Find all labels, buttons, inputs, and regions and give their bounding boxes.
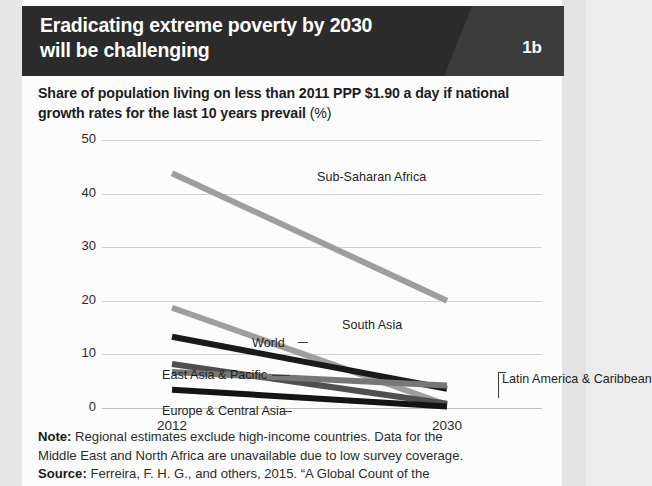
figure-title-line1: Eradicating extreme poverty by 2030 — [40, 14, 372, 36]
note-line-2: Middle East and North Africa are unavail… — [38, 447, 554, 466]
source-text-1: Ferreira, F. H. G., and others, 2015. “A… — [87, 466, 430, 481]
y-tick-label-30: 30 — [56, 238, 96, 253]
chart-subtitle: Share of population living on less than … — [38, 84, 550, 123]
series-label-sub-saharan-africa: Sub-Saharan Africa — [317, 170, 426, 184]
series-label-east-asia-pacific: East Asia & Pacific — [162, 368, 267, 382]
leader-latin-america-caribbean-vertical — [498, 372, 499, 398]
y-tick-label-50: 50 — [56, 131, 96, 146]
series-label-south-asia: South Asia — [342, 318, 402, 332]
source-label: Source: — [38, 466, 87, 481]
series-line-sub-saharan-africa — [172, 173, 447, 301]
leader-europe-central-asia — [280, 411, 292, 412]
header-diagonal-panel — [444, 6, 564, 76]
chart-subtitle-unit: (%) — [310, 105, 332, 121]
series-label-world: World — [252, 336, 285, 350]
chart-subtitle-line1: Share of population living on less than … — [38, 85, 452, 101]
note-text-1: Regional estimates exclude high-income c… — [71, 429, 442, 444]
leader-world — [298, 342, 308, 343]
series-label-europe-central-asia: Europe & Central Asia — [162, 404, 286, 418]
series-label-latin-america-caribbean: Latin America & Caribbean — [502, 372, 652, 386]
figure-header: Eradicating extreme poverty by 2030 will… — [22, 6, 564, 76]
y-tick-label-10: 10 — [56, 345, 96, 360]
leader-latin-america-caribbean-horizontal — [498, 372, 506, 373]
source-line-1: Source: Ferreira, F. H. G., and others, … — [38, 465, 554, 484]
plot-area: 01020304050 20122030 Sub-Saharan AfricaS… — [102, 140, 542, 408]
line-chart: 01020304050 20122030 Sub-Saharan AfricaS… — [22, 126, 562, 426]
figure-title-line2: will be challenging — [40, 38, 440, 63]
figure-footnotes: Note: Regional estimates exclude high-in… — [38, 428, 554, 484]
y-tick-label-0: 0 — [56, 399, 96, 414]
figure-title: Eradicating extreme poverty by 2030 will… — [40, 13, 440, 63]
leader-east-asia-pacific — [272, 375, 290, 376]
note-label: Note: — [38, 429, 71, 444]
note-line-1: Note: Regional estimates exclude high-in… — [38, 428, 554, 447]
figure-number-badge: 1b — [522, 38, 542, 58]
y-tick-label-40: 40 — [56, 185, 96, 200]
y-tick-label-20: 20 — [56, 292, 96, 307]
